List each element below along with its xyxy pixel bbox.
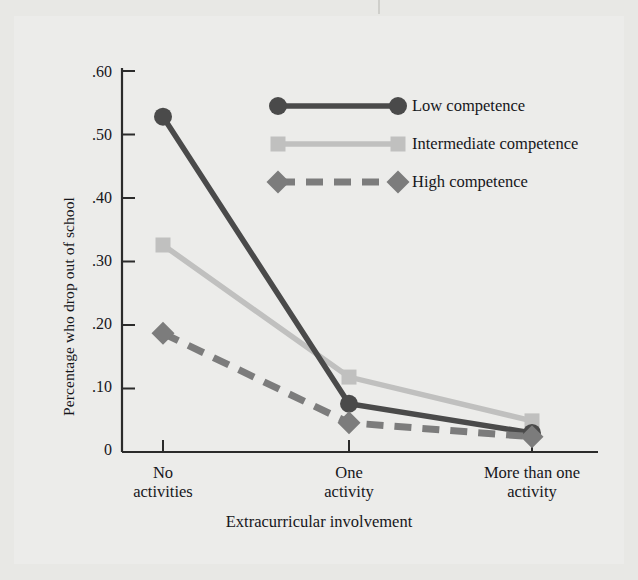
axes [122, 68, 598, 452]
y-axis-ticks [122, 71, 135, 389]
legend-key-low-competence [269, 97, 407, 115]
data-point-marker-diamond [152, 322, 175, 345]
legend-keys [267, 97, 410, 194]
data-point-marker-circle [340, 395, 358, 413]
data-point-marker-circle [389, 97, 407, 115]
x-axis-ticks [163, 440, 532, 452]
data-point-marker-circle [154, 108, 172, 126]
series-line [163, 245, 532, 421]
data-point-marker-square [156, 237, 171, 252]
series-line [163, 117, 532, 433]
data-point-marker-diamond [267, 171, 290, 194]
series-lines [152, 108, 544, 449]
data-point-marker-square [391, 137, 406, 152]
data-point-marker-diamond [387, 171, 410, 194]
legend-key-intermediate-competence [271, 137, 406, 152]
data-point-marker-square [271, 137, 286, 152]
data-point-marker-diamond [338, 411, 361, 434]
series-high-competence [152, 322, 544, 449]
series-low-competence [154, 108, 541, 442]
figure-page: Percentage who drop out of school .60 .5… [0, 0, 638, 580]
chart-canvas [0, 0, 638, 580]
data-point-marker-circle [269, 97, 287, 115]
data-point-marker-square [342, 370, 357, 385]
data-point-marker-diamond [521, 425, 544, 448]
legend-key-high-competence [267, 171, 410, 194]
